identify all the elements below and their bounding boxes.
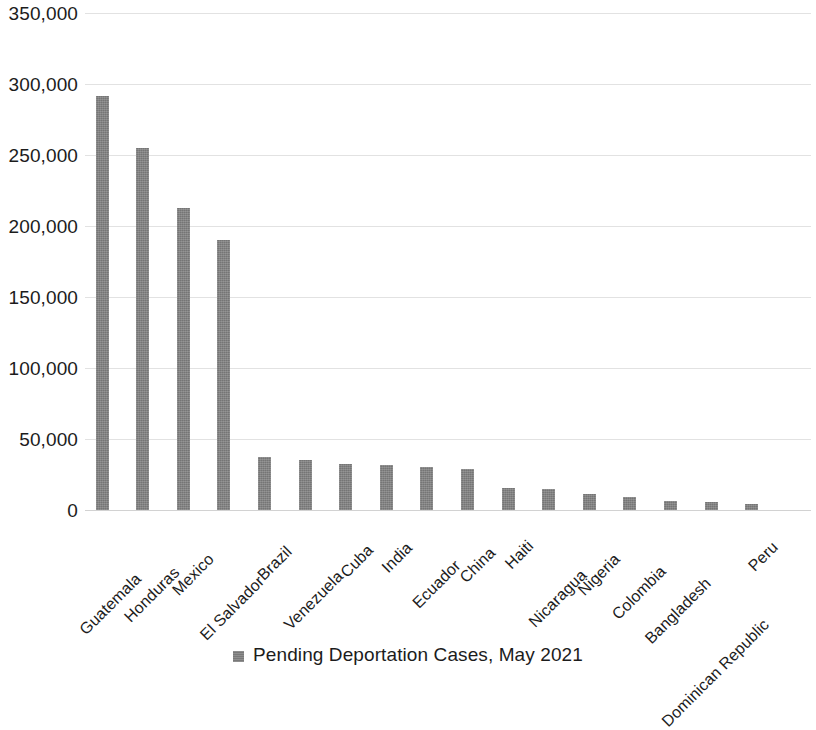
x-tick-label: Brazil (255, 543, 296, 584)
x-tick-label: India (379, 539, 416, 576)
bar[interactable] (299, 460, 312, 510)
y-tick-label: 300,000 (0, 75, 78, 94)
bar[interactable] (380, 465, 393, 510)
legend-square-icon (233, 651, 244, 662)
bar[interactable] (542, 489, 555, 510)
gridline (85, 155, 811, 156)
bar[interactable] (623, 497, 636, 510)
y-tick-label: 0 (0, 501, 78, 520)
y-tick-label: 350,000 (0, 4, 78, 23)
y-tick-label: 200,000 (0, 217, 78, 236)
gridline (85, 84, 811, 85)
y-tick-label: 50,000 (0, 430, 78, 449)
y-tick-label: 150,000 (0, 288, 78, 307)
gridline (85, 297, 811, 298)
y-tick-label: 250,000 (0, 146, 78, 165)
x-tick-label: El Salvador (196, 573, 267, 644)
bar[interactable] (258, 457, 271, 510)
x-tick-label: Peru (744, 538, 780, 574)
bar[interactable] (96, 96, 109, 510)
bar[interactable] (177, 208, 190, 510)
chart-legend: Pending Deportation Cases, May 2021 (0, 645, 816, 665)
plot-area (85, 8, 811, 510)
x-tick-label: Dominican Republic (658, 616, 772, 730)
x-tick-label: China (457, 544, 499, 586)
y-axis: 050,000100,000150,000200,000250,000300,0… (0, 0, 78, 520)
gridline (85, 439, 811, 440)
x-tick-label: Nicaragua (525, 566, 589, 630)
bar[interactable] (461, 469, 474, 510)
bar[interactable] (502, 488, 515, 510)
bar[interactable] (583, 494, 596, 510)
bar[interactable] (136, 148, 149, 510)
gridline (85, 226, 811, 227)
bar[interactable] (339, 464, 352, 510)
bar[interactable] (705, 502, 718, 510)
x-axis: GuatemalaHondurasMexicoEl SalvadorBrazil… (85, 510, 811, 630)
gridline (85, 368, 811, 369)
bar[interactable] (664, 501, 677, 510)
x-tick-label: Venezuela (281, 567, 347, 633)
x-tick-label: Colombia (608, 562, 668, 622)
x-tick-label: Cuba (337, 541, 376, 580)
x-tick-label: Haiti (502, 537, 537, 572)
y-tick-label: 100,000 (0, 359, 78, 378)
x-tick-label: Ecuador (409, 557, 464, 612)
legend-label: Pending Deportation Cases, May 2021 (253, 645, 583, 665)
bar[interactable] (217, 240, 230, 510)
bar[interactable] (420, 467, 433, 510)
gridline (85, 13, 811, 14)
